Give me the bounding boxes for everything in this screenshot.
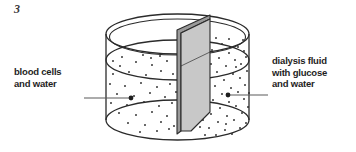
figure-canvas: 3 blood cells and water dialysis fluid w… xyxy=(0,0,356,152)
semi-permeable-membrane xyxy=(177,15,210,134)
label-dialysis-fluid-with-glucose-and-water: dialysis fluid with glucose and water xyxy=(272,55,327,90)
figure-number: 3 xyxy=(14,3,20,15)
membrane-face xyxy=(181,19,210,131)
label-blood-cells-and-water: blood cells and water xyxy=(14,66,61,89)
leader-dot-left xyxy=(129,96,134,101)
leader-dot-right xyxy=(226,93,231,98)
